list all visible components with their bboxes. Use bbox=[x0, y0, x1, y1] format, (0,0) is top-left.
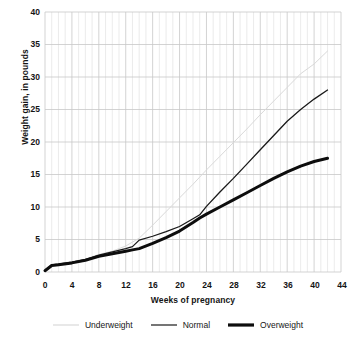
legend-label-normal: Normal bbox=[183, 320, 210, 330]
legend-swatch-underweight bbox=[53, 322, 79, 328]
legend-label-underweight: Underweight bbox=[85, 320, 133, 330]
legend-item-underweight[interactable]: Underweight bbox=[53, 320, 133, 330]
legend-swatch-normal bbox=[151, 322, 177, 328]
chart-legend: Underweight Normal Overweight bbox=[0, 320, 356, 330]
legend-item-overweight[interactable]: Overweight bbox=[228, 320, 303, 330]
weight-gain-line-chart: Weight gain, in pounds 40 35 30 25 20 15… bbox=[0, 0, 356, 341]
legend-swatch-overweight bbox=[228, 322, 254, 328]
plot-area bbox=[0, 0, 356, 341]
legend-label-overweight: Overweight bbox=[260, 320, 303, 330]
legend-item-normal[interactable]: Normal bbox=[151, 320, 210, 330]
